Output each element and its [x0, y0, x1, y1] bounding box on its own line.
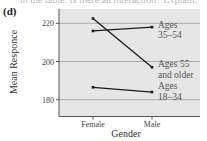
y-tick-label: 200 [42, 58, 54, 67]
interaction-plot: 180200220 FemaleMale Ages35–54Ages 55and… [0, 0, 207, 141]
x-tick-label: Female [81, 120, 105, 129]
series-label: 35–54 [158, 30, 182, 40]
series-label: Ages 55 [158, 59, 190, 69]
data-point [92, 30, 95, 33]
series-label: 18–34 [158, 92, 182, 102]
data-point [92, 17, 95, 20]
data-point [151, 26, 154, 29]
series-label: Ages [158, 20, 178, 30]
y-tick-labels: 180200220 [42, 19, 59, 104]
data-point [151, 66, 154, 69]
x-axis-title: Gender [111, 128, 141, 139]
series-label: Ages [158, 81, 178, 91]
y-tick-label: 180 [42, 96, 54, 105]
x-tick-label: Male [144, 120, 161, 129]
y-tick-label: 220 [42, 19, 54, 28]
y-axis-title: Mean Responce [8, 29, 19, 94]
data-point [92, 86, 95, 89]
data-point [151, 91, 154, 94]
series-label: and older [158, 70, 194, 80]
